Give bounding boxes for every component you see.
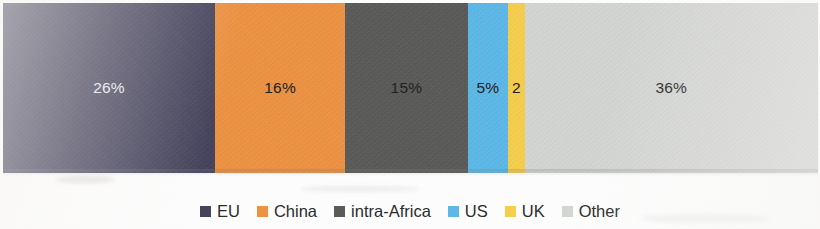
legend-swatch-icon — [505, 206, 516, 217]
legend-swatch-icon — [200, 206, 211, 217]
legend-item-intra-africa[interactable]: intra-Africa — [334, 203, 431, 220]
bar-segment-eu: 26% — [3, 3, 215, 173]
legend-swatch-icon — [562, 206, 573, 217]
legend-item-label: US — [465, 203, 488, 220]
legend-item-other[interactable]: Other — [562, 203, 620, 220]
legend-item-label: Other — [579, 203, 620, 220]
scan-smudge — [55, 176, 115, 183]
bar-segment-value-label: 5% — [477, 79, 500, 97]
legend-item-uk[interactable]: UK — [505, 203, 545, 220]
legend-swatch-icon — [448, 206, 459, 217]
bar-segment-uk: 2 — [508, 3, 524, 173]
legend-item-label: intra-Africa — [351, 203, 431, 220]
bar-segment-value-label: 15% — [391, 79, 423, 97]
chart-legend: EUChinaintra-AfricaUSUKOther — [0, 198, 820, 224]
legend-item-label: EU — [217, 203, 240, 220]
stacked-bar: 26%16%15%5%236% — [3, 3, 818, 173]
bar-segment-china: 16% — [215, 3, 345, 173]
stacked-bar-chart: 26%16%15%5%236% EUChinaintra-AfricaUSUKO… — [0, 0, 820, 229]
legend-item-us[interactable]: US — [448, 203, 488, 220]
scan-smudge — [300, 186, 420, 192]
bar-segment-value-label: 36% — [655, 79, 687, 97]
bar-segment-intra-africa: 15% — [345, 3, 467, 173]
bar-segment-value-label: 16% — [264, 79, 296, 97]
bar-segment-us: 5% — [468, 3, 509, 173]
legend-item-china[interactable]: China — [257, 203, 317, 220]
bar-segment-value-label: 26% — [93, 79, 125, 97]
legend-swatch-icon — [257, 206, 268, 217]
bar-segment-value-label: 2 — [512, 79, 521, 97]
legend-item-label: UK — [522, 203, 545, 220]
legend-item-eu[interactable]: EU — [200, 203, 240, 220]
bar-segment-other: 36% — [525, 3, 818, 173]
legend-item-label: China — [274, 203, 317, 220]
legend-swatch-icon — [334, 206, 345, 217]
